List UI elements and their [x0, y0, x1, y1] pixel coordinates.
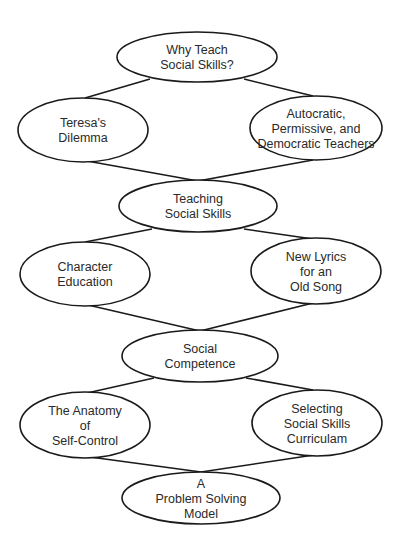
node-teresas-dilemma: Teresa'sDilemma [18, 98, 148, 162]
node-label-line: Teresa's [60, 116, 106, 130]
connector-character-education-to-social-competence [88, 305, 200, 331]
node-label-line: Social Skills [165, 207, 232, 221]
node-label-line: Dilemma [58, 131, 107, 145]
node-new-lyrics: New Lyricsfor anOld Song [251, 238, 381, 304]
connector-selecting-curriculum-to-problem-solving [201, 455, 314, 472]
node-label-line: Problem Solving [155, 492, 246, 506]
connector-autocratic-to-teaching-social-skills [198, 160, 313, 181]
node-ellipse [119, 180, 277, 232]
node-autocratic: Autocratic,Permissive, andDemocratic Tea… [250, 96, 382, 160]
node-selecting-curriculum: SelectingSocial SkillsCurriculam [252, 390, 382, 456]
node-label-line: of [80, 419, 91, 433]
node-label-line: Social Skills? [160, 58, 234, 72]
node-ellipse [18, 98, 148, 162]
node-ellipse [122, 330, 278, 382]
connector-teaching-social-skills-to-character-education [85, 229, 152, 242]
node-teaching-social-skills: TeachingSocial Skills [119, 180, 277, 232]
node-label-line: Character [58, 260, 113, 274]
node-label-line: Model [184, 507, 218, 521]
node-label-line: for an [300, 265, 332, 279]
node-anatomy-self-control: The AnatomyofSelf-Control [20, 392, 150, 458]
connector-why-teach-to-teresas-dilemma [85, 79, 150, 98]
connector-anatomy-self-control-to-problem-solving [90, 457, 201, 472]
node-label-line: Social [183, 342, 217, 356]
connector-social-competence-to-anatomy-self-control [87, 378, 154, 393]
node-label-line: Curriculam [287, 432, 347, 446]
node-label-line: New Lyrics [286, 250, 347, 264]
concept-flow-diagram: Why TeachSocial Skills?Teresa'sDilemmaAu… [0, 0, 405, 548]
node-ellipse [117, 32, 277, 82]
node-label-line: Self-Control [52, 434, 118, 448]
node-label-line: A [197, 477, 206, 491]
node-label-line: The Anatomy [48, 404, 122, 418]
connector-why-teach-to-autocratic [244, 79, 313, 96]
connector-teaching-social-skills-to-new-lyrics [244, 229, 313, 239]
connector-social-competence-to-selecting-curriculum [246, 378, 313, 390]
node-label-line: Competence [165, 357, 236, 371]
node-ellipse [20, 242, 150, 306]
node-character-education: CharacterEducation [20, 242, 150, 306]
node-social-competence: SocialCompetence [122, 330, 278, 382]
node-problem-solving: AProblem SolvingModel [122, 472, 280, 524]
node-label-line: Social Skills [284, 417, 351, 431]
connector-teresas-dilemma-to-teaching-social-skills [87, 161, 198, 181]
connector-new-lyrics-to-social-competence [200, 303, 313, 331]
node-label-line: Autocratic, [286, 107, 345, 121]
node-label-line: Teaching [173, 192, 223, 206]
node-label-line: Why Teach [166, 43, 228, 57]
node-label-line: Permissive, and [272, 122, 361, 136]
diagram-nodes: Why TeachSocial Skills?Teresa'sDilemmaAu… [18, 32, 382, 524]
node-label-line: Democratic Teachers [257, 137, 374, 151]
node-label-line: Education [57, 275, 113, 289]
node-label-line: Old Song [290, 280, 342, 294]
node-why-teach: Why TeachSocial Skills? [117, 32, 277, 82]
node-label-line: Selecting [291, 402, 342, 416]
